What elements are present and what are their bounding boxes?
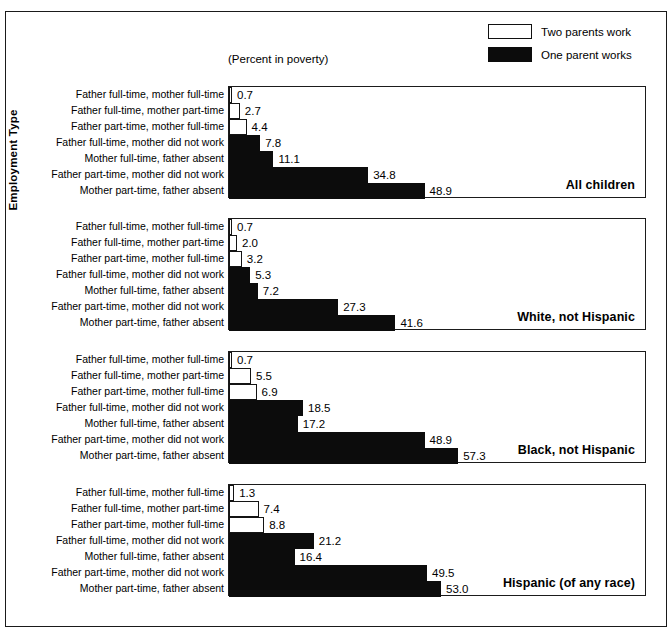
bar-row: 7.8 — [229, 135, 645, 151]
bar-value-label: 53.0 — [446, 582, 468, 596]
bar-value-label: 1.3 — [239, 486, 255, 500]
bar-value-label: 2.0 — [242, 236, 258, 250]
bar-value-label: 18.5 — [308, 401, 330, 415]
bar — [229, 267, 250, 283]
category-label: Father part-time, mother full-time — [12, 517, 228, 531]
bar — [229, 485, 234, 501]
bar-row: 2.7 — [229, 103, 645, 119]
category-label: Father full-time, mother did not work — [12, 135, 228, 149]
bar-value-label: 21.2 — [319, 534, 341, 548]
bar — [229, 565, 427, 581]
bar-row: 11.1 — [229, 151, 645, 167]
bar — [229, 183, 425, 199]
category-label: Father full-time, mother full-time — [12, 87, 228, 101]
category-label: Mother full-time, father absent — [12, 151, 228, 165]
bar — [229, 251, 242, 267]
bar-value-label: 17.2 — [303, 417, 325, 431]
black-box-icon — [488, 47, 532, 62]
category-label: Mother full-time, father absent — [12, 283, 228, 297]
bar-row: 18.5 — [229, 400, 645, 416]
bar-row: 2.0 — [229, 235, 645, 251]
bar — [229, 384, 257, 400]
bar — [229, 87, 232, 103]
bar-row: 7.2 — [229, 283, 645, 299]
legend-item-label: One parent works — [541, 49, 632, 61]
bar-value-label: 8.8 — [269, 518, 285, 532]
plot-caption: (Percent in poverty) — [228, 53, 328, 65]
category-label: Mother part-time, father absent — [12, 315, 228, 329]
bar — [229, 235, 237, 251]
bar-value-label: 16.4 — [300, 550, 322, 564]
bar — [229, 517, 264, 533]
category-label: Father full-time, mother did not work — [12, 400, 228, 414]
category-label: Father part-time, mother did not work — [12, 167, 228, 181]
category-label: Father full-time, mother part-time — [12, 103, 228, 117]
category-label: Father part-time, mother full-time — [12, 384, 228, 398]
panel-title: All children — [566, 178, 635, 192]
bar-row: 7.4 — [229, 501, 645, 517]
category-label-column: Father full-time, mother full-timeFather… — [0, 218, 228, 330]
bar-value-label: 7.4 — [264, 502, 280, 516]
bar-row: 5.5 — [229, 368, 645, 384]
category-label: Mother part-time, father absent — [12, 581, 228, 595]
category-label-column: Father full-time, mother full-timeFather… — [0, 484, 228, 596]
category-label: Father part-time, mother full-time — [12, 119, 228, 133]
bar-row: 3.2 — [229, 251, 645, 267]
bar — [229, 103, 240, 119]
chart-panel: 0.72.03.25.37.227.341.6White, not Hispan… — [228, 218, 646, 330]
bar-value-label: 48.9 — [430, 184, 452, 198]
bar — [229, 400, 303, 416]
bar — [229, 368, 251, 384]
chart-panel: 0.72.74.47.811.134.848.9All children — [228, 86, 646, 198]
category-label-column: Father full-time, mother full-timeFather… — [0, 86, 228, 198]
category-label: Father full-time, mother part-time — [12, 235, 228, 249]
legend-item: One parent works — [488, 45, 664, 64]
bar-row: 8.8 — [229, 517, 645, 533]
category-label: Father part-time, mother did not work — [12, 565, 228, 579]
bar-row: 21.2 — [229, 533, 645, 549]
category-label: Father full-time, mother full-time — [12, 352, 228, 366]
bar-value-label: 57.3 — [463, 449, 485, 463]
bar — [229, 119, 247, 135]
white-box-icon — [488, 24, 532, 39]
bar — [229, 448, 458, 464]
bar-value-label: 11.1 — [278, 152, 300, 166]
bar-value-label: 0.7 — [237, 88, 253, 102]
bar — [229, 135, 260, 151]
bar-row: 0.7 — [229, 219, 645, 235]
bar-row: 0.7 — [229, 352, 645, 368]
category-label: Father full-time, mother part-time — [12, 368, 228, 382]
bar-value-label: 5.5 — [256, 369, 272, 383]
legend-item-label: Two parents work — [541, 26, 631, 38]
bar-value-label: 6.9 — [262, 385, 278, 399]
bar-value-label: 49.5 — [432, 566, 454, 580]
bar-value-label: 2.7 — [245, 104, 261, 118]
category-label: Father full-time, mother did not work — [12, 267, 228, 281]
bar — [229, 151, 273, 167]
bar-value-label: 0.7 — [237, 220, 253, 234]
category-label: Mother part-time, father absent — [12, 183, 228, 197]
category-label: Father full-time, mother part-time — [12, 501, 228, 515]
panel-title: Hispanic (of any race) — [503, 576, 635, 590]
chart-panel: 0.75.56.918.517.248.957.3Black, not Hisp… — [228, 351, 646, 463]
figure-root: Employment Type Two parents workOne pare… — [0, 0, 672, 638]
panel-title: White, not Hispanic — [517, 310, 635, 324]
bar-value-label: 7.8 — [265, 136, 281, 150]
bar-value-label: 4.4 — [252, 120, 268, 134]
category-label: Mother part-time, father absent — [12, 448, 228, 462]
bar — [229, 501, 259, 517]
chart-panel: 1.37.48.821.216.449.553.0Hispanic (of an… — [228, 484, 646, 596]
panel-title: Black, not Hispanic — [518, 443, 635, 457]
legend-item: Two parents work — [488, 22, 664, 41]
bar-value-label: 41.6 — [400, 316, 422, 330]
category-label: Mother full-time, father absent — [12, 549, 228, 563]
bar — [229, 533, 314, 549]
bar — [229, 299, 338, 315]
category-label: Father part-time, mother full-time — [12, 251, 228, 265]
bar — [229, 283, 258, 299]
bar — [229, 219, 232, 235]
bar-value-label: 0.7 — [237, 353, 253, 367]
category-label: Mother full-time, father absent — [12, 416, 228, 430]
category-label: Father part-time, mother did not work — [12, 432, 228, 446]
category-label: Father full-time, mother did not work — [12, 533, 228, 547]
